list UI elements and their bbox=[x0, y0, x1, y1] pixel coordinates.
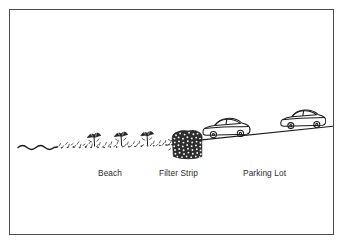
stippled-sand-texture bbox=[59, 140, 178, 148]
parking-lot-grade-line bbox=[197, 126, 333, 140]
label-filter-strip: Filter Strip bbox=[159, 168, 198, 178]
beach-umbrella-3 bbox=[141, 131, 154, 145]
parked-car-1 bbox=[203, 118, 250, 137]
beach-umbrella-2 bbox=[114, 131, 127, 146]
beach-umbrella-1 bbox=[87, 132, 100, 146]
wavy-water-line bbox=[18, 146, 58, 150]
parked-car-2 bbox=[281, 110, 326, 129]
scene-drawing bbox=[0, 0, 344, 245]
label-beach: Beach bbox=[98, 168, 122, 178]
figure-root: Beach Filter Strip Parking Lot bbox=[0, 0, 344, 245]
label-parking-lot: Parking Lot bbox=[243, 168, 286, 178]
